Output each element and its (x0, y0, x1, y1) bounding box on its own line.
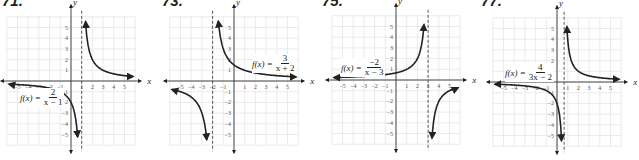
svg-text:−4: −4 (188, 84, 194, 90)
formula-denominator: x − 1 (42, 98, 65, 107)
formula-denominator: x − 3 (363, 68, 386, 77)
function-curve (432, 88, 458, 139)
svg-text:2: 2 (254, 84, 257, 90)
svg-text:y: y (235, 0, 240, 7)
svg-text:y: y (558, 0, 563, 8)
svg-text:4: 4 (112, 84, 115, 90)
graph-panel-73: 73. xy−5−4−3−2−112345−5−4−3−2−112345 f(x… (160, 0, 320, 160)
formula-denominator: 3x − 2 (527, 73, 554, 82)
svg-text:2: 2 (65, 57, 68, 63)
svg-text:1: 1 (390, 66, 393, 72)
graph-panel-75: 75. xy−5−4−3−2−112345−5−4−3−2−112345 f(x… (320, 0, 480, 160)
svg-text:3: 3 (102, 84, 105, 90)
svg-text:x: x (146, 76, 151, 86)
svg-text:3: 3 (265, 84, 268, 90)
svg-text:2: 2 (577, 85, 580, 91)
svg-text:−1: −1 (225, 89, 231, 95)
svg-text:x: x (632, 77, 637, 87)
svg-text:4: 4 (390, 34, 393, 40)
svg-text:−5: −5 (225, 132, 231, 138)
svg-text:−5: −5 (177, 84, 183, 90)
svg-text:−5: −5 (387, 131, 393, 137)
svg-text:5: 5 (65, 25, 68, 31)
formula-fraction: 2 x − 1 (42, 88, 65, 107)
svg-text:3: 3 (551, 47, 554, 53)
svg-text:4: 4 (551, 36, 554, 42)
function-formula: f(x) = −2 x − 3 (341, 58, 385, 77)
svg-text:−4: −4 (225, 121, 231, 127)
formula-fraction: 4 3x − 2 (527, 63, 554, 82)
svg-text:4: 4 (228, 35, 231, 41)
function-formula: f(x) = 3 x + 2 (252, 54, 296, 73)
graph-plot: xy−5−4−3−2−112345−5−4−3−2−112345 (479, 0, 639, 160)
svg-text:−4: −4 (387, 120, 393, 126)
svg-text:4: 4 (437, 83, 440, 89)
svg-text:5: 5 (286, 84, 289, 90)
svg-text:1: 1 (405, 83, 408, 89)
function-formula: f(x) = 4 3x − 2 (505, 63, 554, 82)
svg-text:−3: −3 (548, 111, 554, 117)
svg-text:x: x (471, 75, 476, 85)
svg-text:1: 1 (228, 67, 231, 73)
svg-text:4: 4 (275, 84, 278, 90)
svg-text:y: y (397, 0, 402, 6)
graph-plot: xy−5−4−3−2−112345−5−4−3−2−112345 (320, 0, 480, 160)
svg-text:3: 3 (588, 85, 591, 91)
svg-text:−3: −3 (387, 109, 393, 115)
svg-text:2: 2 (416, 83, 419, 89)
svg-text:1: 1 (243, 84, 246, 90)
svg-text:2: 2 (91, 84, 94, 90)
svg-text:1: 1 (65, 67, 68, 73)
graph-panel-77: 77. xy−5−4−3−2−112345−5−4−3−2−112345 f(x… (479, 0, 639, 160)
formula-lhs: f(x) = (252, 59, 273, 69)
svg-text:−5: −5 (500, 85, 506, 91)
graph-panel-71: 71. xy−5−4−3−2−112345−5−4−3−2−112345 f(x… (0, 0, 160, 160)
svg-text:−4: −4 (62, 121, 68, 127)
svg-text:1: 1 (566, 85, 569, 91)
svg-text:−2: −2 (387, 98, 393, 104)
svg-text:5: 5 (123, 84, 126, 90)
svg-text:−5: −5 (62, 132, 68, 138)
svg-text:5: 5 (551, 26, 554, 32)
formula-lhs: f(x) = (20, 93, 41, 103)
svg-text:−1: −1 (387, 88, 393, 94)
svg-text:−2: −2 (548, 100, 554, 106)
svg-text:5: 5 (448, 83, 451, 89)
svg-text:y: y (72, 0, 77, 7)
svg-text:x: x (309, 76, 314, 86)
svg-text:−4: −4 (350, 83, 356, 89)
svg-text:2: 2 (390, 56, 393, 62)
svg-text:5: 5 (390, 24, 393, 30)
formula-lhs: f(x) = (505, 68, 526, 78)
svg-text:−2: −2 (371, 83, 377, 89)
function-formula: f(x) = 2 x − 1 (20, 88, 64, 107)
function-curve (172, 89, 207, 139)
formula-fraction: 3 x + 2 (274, 54, 297, 73)
svg-text:−4: −4 (548, 122, 554, 128)
svg-text:−3: −3 (62, 110, 68, 116)
svg-text:−3: −3 (199, 84, 205, 90)
svg-text:−5: −5 (339, 83, 345, 89)
svg-text:4: 4 (65, 35, 68, 41)
svg-text:−2: −2 (225, 99, 231, 105)
graph-plot: xy−5−4−3−2−112345−5−4−3−2−112345 (160, 0, 320, 160)
svg-text:3: 3 (65, 46, 68, 52)
formula-lhs: f(x) = (341, 63, 362, 73)
formula-fraction: −2 x − 3 (363, 58, 386, 77)
svg-text:5: 5 (609, 85, 612, 91)
svg-text:−5: −5 (548, 133, 554, 139)
svg-text:−3: −3 (225, 110, 231, 116)
svg-text:3: 3 (228, 46, 231, 52)
svg-text:4: 4 (598, 85, 601, 91)
svg-text:5: 5 (228, 25, 231, 31)
graph-plot: xy−5−4−3−2−112345−5−4−3−2−112345 (0, 0, 160, 160)
svg-text:−3: −3 (361, 83, 367, 89)
svg-text:3: 3 (390, 45, 393, 51)
formula-denominator: x + 2 (274, 64, 297, 73)
